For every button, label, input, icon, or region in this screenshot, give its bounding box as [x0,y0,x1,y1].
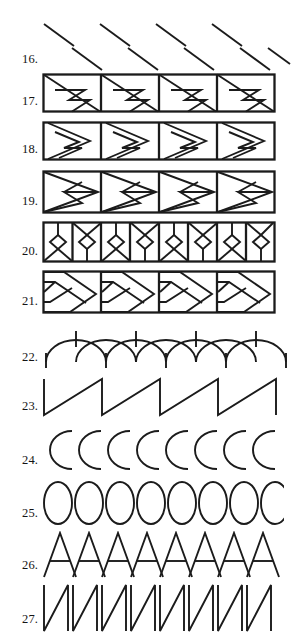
row-number-19: 19. [8,195,38,208]
row-23-art [42,377,284,417]
diagonal-strokes-figure [42,20,291,72]
row-number-17: 17. [8,95,38,108]
row-26: 26. [0,531,291,579]
row-25-art [42,479,284,527]
row-number-20: 20. [8,245,38,258]
row-22-art [42,325,290,369]
row-19: 19. [0,170,291,214]
row-17-art [42,73,276,113]
row-27-art [42,583,284,633]
row-18: 18. [0,121,291,161]
diamond-x-alternating-band-figure [42,221,276,263]
row-number-22: 22. [8,351,38,364]
row-number-27: 27. [8,613,38,626]
sawtooth-figure [42,377,284,417]
herringbone-chevron-band-figure [42,270,276,314]
row-18-art [42,121,276,161]
row-16: 16. [0,20,291,72]
row-19-art [42,170,276,214]
row-23: 23. [0,377,291,417]
row-20-art [42,221,276,263]
row-25: 25. [0,479,291,527]
row-22: 22. [0,325,291,369]
row-number-26: 26. [8,559,38,572]
row-24-art [42,427,282,473]
row-21-art [42,270,276,314]
c-arc-row-figure [42,427,282,473]
row-number-24: 24. [8,454,38,467]
letter-n-row-figure [42,583,284,633]
row-number-18: 18. [8,143,38,156]
row-number-16: 16. [8,53,38,66]
row-16-art [42,20,291,72]
row-17: 17. [0,73,291,113]
row-number-23: 23. [8,400,38,413]
ellipse-row-figure [42,479,284,527]
row-26-art [42,531,284,579]
row-20: 20. [0,221,291,263]
crossed-triangle-band-figure [42,170,276,214]
row-27: 27. [0,583,291,633]
row-number-25: 25. [8,507,38,520]
row-number-21: 21. [8,295,38,308]
rectangle-zigzag-band-figure [42,73,276,113]
row-21: 21. [0,270,291,314]
letter-a-row-figure [42,531,284,579]
right-triangle-zigzag-band-figure [42,121,276,161]
pattern-sheet: 16. 17. [0,0,291,638]
row-24: 24. [0,427,291,473]
overlapping-arcs-figure [42,325,290,369]
